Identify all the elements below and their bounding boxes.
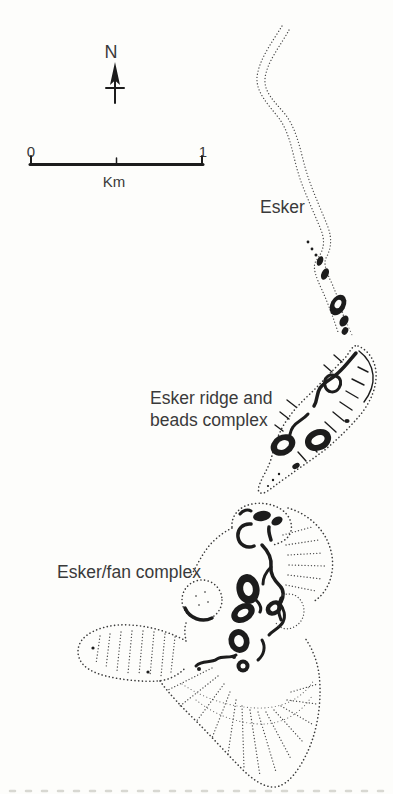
ridge-beads-label-line1: Esker ridge and — [150, 388, 273, 408]
esker-fan-sketch — [78, 503, 333, 787]
fan-bead-ring — [237, 660, 250, 673]
fan-bead-ring — [226, 627, 252, 656]
scale-unit-label: Km — [103, 173, 126, 190]
north-arrow-icon: N — [105, 42, 125, 103]
scale-bar: 0 1 Km — [27, 143, 207, 190]
esker-label: Esker — [260, 197, 305, 217]
fan-left-mound — [182, 580, 222, 620]
figure-page: N 0 1 Km Esker — [0, 0, 393, 794]
fan-right-ribs — [283, 527, 325, 591]
fan-label: Esker/fan complex — [57, 562, 201, 582]
map-figure: N 0 1 Km Esker — [0, 0, 393, 794]
fan-left-arm-ribs — [91, 631, 175, 676]
esker-ridge-beads-sketch — [258, 346, 376, 493]
esker-bead-ring — [326, 292, 350, 318]
north-label: N — [105, 42, 118, 62]
ridge-beads-label-line2: beads complex — [150, 410, 268, 430]
bead-ring — [301, 425, 334, 455]
esker-sketch — [257, 26, 352, 336]
fan-bead-ring — [228, 599, 259, 627]
fan-ribs — [168, 668, 318, 776]
